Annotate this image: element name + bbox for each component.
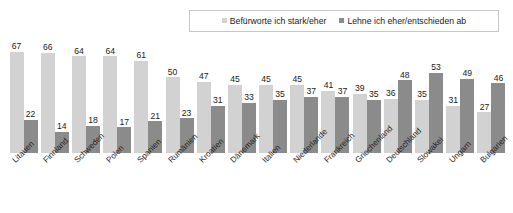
bar-support: 27 [477,36,491,153]
chart-legend: Befürworte ich stark/eher Lehne ich eher… [189,10,499,32]
x-axis-tick: Rumänien [164,153,195,213]
bar-support: 64 [103,36,117,153]
bar-rect [134,61,148,153]
bar-support: 45 [290,36,304,153]
bar-value-label: 31 [448,96,458,105]
bar-rect [228,85,242,153]
bar-support: 67 [10,36,24,153]
x-axis-tick: Schweden [70,153,101,213]
bar-oppose: 22 [24,36,38,153]
bar-support: 64 [72,36,86,153]
x-axis-tick: Griechenland [351,153,382,213]
legend-item-oppose: Lehne ich eher/entschieden ab [339,17,466,26]
x-axis-tick: Finnland [39,153,70,213]
bar-value-label: 36 [386,89,396,98]
bar-value-label: 67 [12,42,22,51]
bar-value-label: 46 [494,74,504,83]
x-axis-tick: Spanien [133,153,164,213]
bar-oppose: 21 [148,36,162,153]
bar-value-label: 23 [182,109,192,118]
bar-group: 4731 [195,36,226,153]
grouped-bar-chart: Befürworte ich stark/eher Lehne ich eher… [0,0,513,213]
bar-rect [290,85,304,153]
bar-rect [321,91,335,153]
x-axis-tick: Polen [102,153,133,213]
bar-value-label: 14 [57,122,67,131]
bar-group: 3149 [445,36,476,153]
bar-value-label: 48 [400,71,410,80]
bar-value-label: 17 [119,118,129,127]
square-swatch-icon [339,18,344,23]
square-swatch-icon [222,18,227,23]
bar-value-label: 35 [417,90,427,99]
bar-value-label: 45 [261,75,271,84]
bar-oppose: 35 [273,36,287,153]
bar-group: 6722 [8,36,39,153]
bar-value-label: 35 [369,90,379,99]
bar-value-label: 39 [355,84,365,93]
bar-support: 47 [197,36,211,153]
bar-rect [41,53,55,153]
bar-support: 45 [228,36,242,153]
x-axis-tick: Italien [258,153,289,213]
bar-rect [259,85,273,153]
bar-group: 6417 [102,36,133,153]
bar-value-label: 22 [26,110,36,119]
bar-value-label: 18 [88,116,98,125]
x-axis-tick: Dänemark [226,153,257,213]
bar-value-label: 45 [293,75,303,84]
bar-rect [10,52,24,153]
legend-label-support: Befürworte ich stark/eher [230,17,327,26]
bar-group: 4535 [258,36,289,153]
bar-value-label: 21 [151,112,161,121]
bar-support: 66 [41,36,55,153]
bar-value-label: 53 [431,63,441,72]
x-axis-labels: LitauenFinnlandSchwedenPolenSpanienRumän… [8,153,507,213]
bar-rect [166,77,180,153]
x-axis-tick: Kroatien [195,153,226,213]
x-axis-tick: Deutschland [382,153,413,213]
x-axis-tick: Bulgarien [476,153,507,213]
bar-value-label: 35 [275,90,285,99]
bar-value-label: 64 [105,47,115,56]
bar-value-label: 50 [168,68,178,77]
bar-value-label: 66 [43,43,53,52]
x-axis-tick: Litauen [8,153,39,213]
bar-value-label: 47 [199,72,209,81]
x-axis-tick: Frankreich [320,153,351,213]
bar-value-label: 41 [324,81,334,90]
x-axis-tick: Ungarn [445,153,476,213]
bar-value-label: 45 [230,75,240,84]
bar-value-label: 33 [244,93,254,102]
bar-oppose: 17 [117,36,131,153]
bar-value-label: 64 [74,47,84,56]
bar-value-label: 49 [462,69,472,78]
bar-group: 6121 [133,36,164,153]
x-axis-tick: Slowakei [413,153,444,213]
bar-support: 45 [259,36,273,153]
legend-item-support: Befürworte ich stark/eher [222,17,327,26]
legend-label-oppose: Lehne ich eher/entschieden ab [347,17,466,26]
bar-support: 50 [166,36,180,153]
bar-group: 6614 [39,36,70,153]
bar-rect [197,82,211,153]
bar-value-label: 37 [338,87,348,96]
bar-value-label: 37 [307,87,317,96]
x-axis-tick: Niederlande [289,153,320,213]
bar-oppose: 31 [211,36,225,153]
bar-value-label: 27 [480,103,490,112]
bar-value-label: 61 [137,51,147,60]
bar-oppose: 49 [460,36,474,153]
bar-support: 31 [446,36,460,153]
bar-support: 61 [134,36,148,153]
bar-value-label: 31 [213,96,223,105]
bar-rect [72,56,86,153]
bar-oppose: 14 [55,36,69,153]
bar-rect [353,94,367,153]
bar-oppose: 53 [429,36,443,153]
